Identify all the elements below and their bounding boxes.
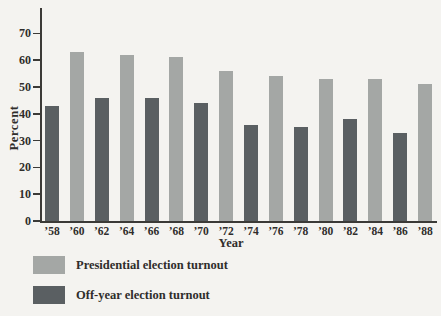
x-tick-label-’80: ’80 — [312, 226, 340, 237]
y-tick-label-0: 0 — [0, 215, 31, 227]
bar-presidential-’88 — [418, 84, 432, 221]
bar-off_year-’70 — [194, 103, 208, 221]
x-tick-label-’60: ’60 — [63, 226, 91, 237]
x-tick-label-’78: ’78 — [287, 226, 315, 237]
y-tick-label-30: 30 — [0, 135, 31, 147]
bar-off_year-’86 — [393, 133, 407, 222]
y-tick-label-10: 10 — [0, 188, 31, 200]
x-tick-label-’82: ’82 — [336, 226, 364, 237]
bar-presidential-’60 — [70, 52, 84, 221]
legend-swatch-off-year — [33, 286, 65, 304]
y-tick-label-20: 20 — [0, 161, 31, 173]
x-tick-label-’66: ’66 — [138, 226, 166, 237]
bar-off_year-’78 — [294, 127, 308, 221]
bar-off_year-’58 — [45, 106, 59, 221]
x-axis-line — [40, 221, 437, 223]
x-axis-title: Year — [193, 237, 269, 250]
legend-swatch-presidential — [33, 256, 65, 274]
y-tick-label-40: 40 — [0, 108, 31, 120]
y-tick-label-70: 70 — [0, 27, 31, 39]
bar-off_year-’74 — [244, 125, 258, 222]
x-tick-label-’70: ’70 — [187, 226, 215, 237]
bar-presidential-’76 — [269, 76, 283, 221]
bar-presidential-’84 — [368, 79, 382, 221]
x-tick-label-’64: ’64 — [113, 226, 141, 237]
legend-label-presidential: Presidential election turnout — [76, 258, 228, 273]
legend-row-presidential: Presidential election turnout — [33, 256, 228, 274]
y-tick-label-60: 60 — [0, 54, 31, 66]
bar-presidential-’80 — [319, 79, 333, 221]
x-tick-label-’88: ’88 — [411, 226, 439, 237]
x-tick-label-’76: ’76 — [262, 226, 290, 237]
x-tick-label-’84: ’84 — [361, 226, 389, 237]
y-axis-line — [40, 8, 42, 222]
legend-label-off-year: Off-year election turnout — [76, 288, 210, 303]
bar-presidential-’68 — [169, 57, 183, 221]
bar-presidential-’72 — [219, 71, 233, 221]
bar-off_year-’82 — [343, 119, 357, 221]
turnout-bar-chart: Percent 010203040506070’58’60’62’64’66’6… — [0, 0, 441, 316]
bar-off_year-’62 — [95, 98, 109, 221]
x-tick-label-’58: ’58 — [38, 226, 66, 237]
x-tick-label-’86: ’86 — [386, 226, 414, 237]
x-tick-label-’68: ’68 — [162, 226, 190, 237]
bar-presidential-’64 — [120, 55, 134, 221]
bar-off_year-’66 — [145, 98, 159, 221]
y-tick-label-50: 50 — [0, 81, 31, 93]
legend-row-off-year: Off-year election turnout — [33, 286, 210, 304]
x-tick-label-’62: ’62 — [88, 226, 116, 237]
